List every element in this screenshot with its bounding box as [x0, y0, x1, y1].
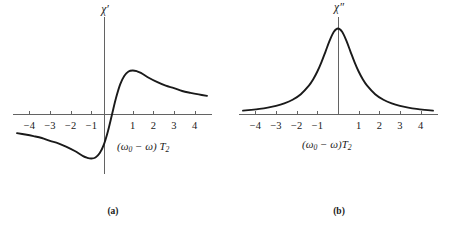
- x-tick-label-b-5: 2: [377, 121, 382, 132]
- x-tick-label-a-6: 3: [171, 121, 176, 132]
- x-tick-label-a-0: −4: [24, 121, 35, 132]
- x-axis-label-b: (ω0 − ω)T2: [302, 139, 352, 150]
- x-tick-label-b-0: −4: [250, 121, 261, 132]
- panel-b-absorption: χ″ (ω0 − ω)T2 (b) −4−3−2−11234: [226, 0, 452, 230]
- x-tick-label-a-4: 1: [130, 121, 135, 132]
- x-axis-label-a-prefix: (ω: [117, 140, 128, 152]
- x-tick-label-b-1: −3: [270, 121, 281, 132]
- x-axis-label-a: (ω0 − ω) T2: [117, 141, 169, 152]
- x-tick-label-a-7: 4: [192, 121, 197, 132]
- x-axis-label-a-sub: 0: [128, 145, 132, 154]
- x-axis-label-a-T: T: [159, 140, 165, 152]
- panel-a-caption: (a): [107, 207, 118, 217]
- x-axis-label-b-prefix: (ω: [302, 138, 313, 150]
- x-tick-label-b-2: −2: [291, 121, 302, 132]
- x-tick-label-b-7: 4: [418, 121, 423, 132]
- x-tick-label-a-5: 2: [151, 121, 156, 132]
- x-axis-label-b-mid: − ω): [317, 138, 341, 150]
- panel-b-caption: (b): [333, 207, 345, 217]
- x-tick-label-b-6: 3: [397, 121, 402, 132]
- x-tick-label-b-4: 1: [356, 121, 361, 132]
- panel-a-plot: [0, 0, 226, 230]
- panel-a-dispersion: χ′ (ω0 − ω) T2 (a) −4−3−2−11234: [0, 0, 226, 230]
- x-tick-label-a-1: −3: [44, 121, 55, 132]
- y-axis-label-a: χ′: [101, 4, 109, 16]
- x-tick-label-b-3: −1: [312, 121, 323, 132]
- x-axis-label-b-sub: 0: [313, 143, 317, 152]
- x-axis-label-a-Tsub: 2: [166, 145, 170, 154]
- panel-b-plot: [226, 0, 452, 230]
- x-tick-label-a-3: −1: [86, 121, 97, 132]
- figure-container: χ′ (ω0 − ω) T2 (a) −4−3−2−11234 χ″ (ω0 −…: [0, 0, 452, 230]
- x-axis-label-a-mid: − ω): [132, 140, 159, 152]
- x-axis-label-b-Tsub: 2: [348, 143, 352, 152]
- y-axis-label-b: χ″: [334, 2, 344, 14]
- x-axis-label-b-T: T: [342, 138, 348, 150]
- x-tick-label-a-2: −2: [65, 121, 76, 132]
